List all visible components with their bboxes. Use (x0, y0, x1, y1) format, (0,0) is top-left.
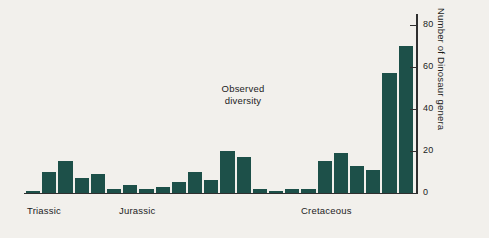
annotation-line-2: diversity (197, 95, 289, 107)
period-label-cretaceous: Cretaceous (301, 205, 352, 216)
bar-K5 (350, 166, 364, 193)
bar-J7 (204, 180, 218, 193)
bar-J8 (220, 151, 234, 193)
y-tick-label-20: 20 (423, 146, 433, 155)
bar-K8 (399, 46, 413, 193)
bar-K7 (382, 73, 396, 193)
bar-T2 (42, 172, 56, 193)
bar-K4 (334, 153, 348, 193)
y-tick-20 (410, 151, 417, 152)
bar-J6 (188, 172, 202, 193)
y-tick-label-80: 80 (423, 20, 433, 29)
y-tick-label-40: 40 (423, 104, 433, 113)
bar-K3 (318, 161, 332, 193)
bar-T5 (91, 174, 105, 193)
bar-T3 (58, 161, 72, 193)
y-tick-60 (410, 67, 417, 68)
y-axis-title: Number of Dinosaur genera (436, 8, 447, 188)
bar-J2 (123, 185, 137, 193)
period-label-jurassic: Jurassic (119, 205, 155, 216)
annotation-line-1: Observed (197, 83, 289, 95)
bar-T4 (75, 178, 89, 193)
x-axis-baseline (24, 193, 415, 194)
y-tick-80 (410, 25, 417, 26)
y-axis-line (416, 14, 418, 194)
y-tick-40 (410, 109, 417, 110)
period-label-triassic: Triassic (27, 205, 61, 216)
y-tick-label-60: 60 (423, 62, 433, 71)
y-tick-label-0: 0 (423, 188, 428, 197)
observed-diversity-annotation: Observed diversity (197, 83, 289, 107)
bar-J9 (237, 157, 251, 193)
bar-J5 (172, 182, 186, 193)
dinosaur-diversity-bar-chart: 020406080 Number of Dinosaur genera Tria… (0, 0, 489, 238)
y-tick-0 (410, 193, 417, 194)
bar-K6 (366, 170, 380, 193)
